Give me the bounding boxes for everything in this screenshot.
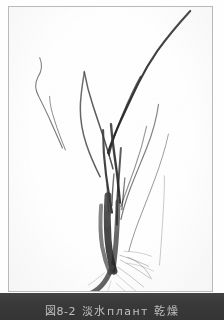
root-fiber-5 [124,251,152,256]
leaf-right-arch-outer [121,104,159,219]
specimen-hanging-strand [160,176,165,265]
leaf-main-upper-right [108,11,190,153]
specimen-stem-sheaths [100,196,117,273]
figure-caption-bar: 図8-2淡水плант 乾燥 [0,293,224,320]
leaf-inner-short-a [112,174,114,206]
leaf-right-arch-inner [121,126,147,206]
figure-number: 図8-2 [45,305,76,318]
root-fiber-4 [115,273,136,291]
leaf-far-right [129,134,169,251]
leaf-fork-left [84,72,113,169]
figure-page: 図8-2淡水плант 乾燥 [0,0,224,320]
leaf-fork-right [80,73,100,177]
figure-caption-title: 淡水плант 乾燥 [82,305,179,318]
strand-right-hanging [160,176,165,265]
root-fiber-9 [116,283,131,291]
root-tuft-right [128,257,152,279]
plant-specimen-illustration [9,7,212,291]
root-fiber-3 [118,267,144,287]
specimen-leaves [36,11,191,251]
sheath-second [113,202,118,271]
plate-area [0,0,224,294]
plate-frame [8,6,213,292]
leaf-left-thin-upper [36,58,63,148]
specimen-roots [88,251,153,291]
figure-caption-text: 図8-2淡水плант 乾燥 [0,306,224,318]
